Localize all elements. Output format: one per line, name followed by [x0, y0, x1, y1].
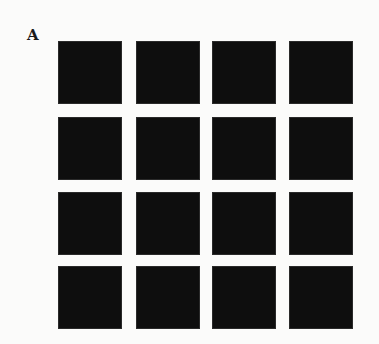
- panel-label: A: [27, 26, 39, 44]
- grid-square-r4-c2: [136, 266, 200, 329]
- grid-square-r4-c3: [212, 266, 276, 329]
- grid-square-r1-c3: [212, 41, 276, 104]
- grid-square-r2-c1: [58, 117, 122, 180]
- grid-square-r3-c3: [212, 192, 276, 255]
- grid-square-r3-c2: [136, 192, 200, 255]
- grid-square-r2-c3: [212, 117, 276, 180]
- grid-square-r4-c4: [289, 266, 353, 329]
- grid-square-r3-c1: [58, 192, 122, 255]
- grid-square-r2-c2: [136, 117, 200, 180]
- grid-square-r1-c2: [136, 41, 200, 104]
- grid-square-r4-c1: [58, 266, 122, 329]
- grid-square-r1-c4: [289, 41, 353, 104]
- grid-square-r2-c4: [289, 117, 353, 180]
- grid-square-r3-c4: [289, 192, 353, 255]
- grid-square-r1-c1: [58, 41, 122, 104]
